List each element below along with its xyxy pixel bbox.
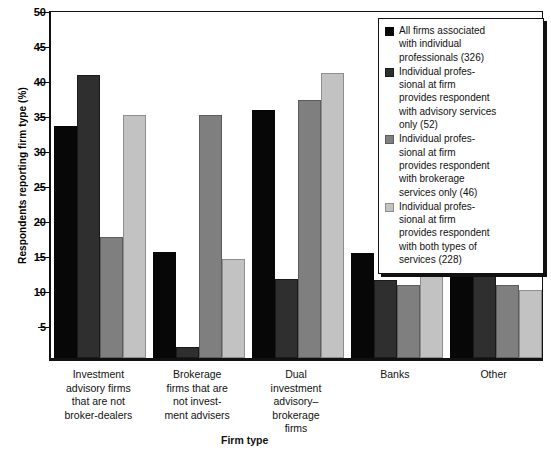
legend-label: Individual profes- sional at firm provid… [399, 200, 490, 266]
y-axis-tick-label: 45 [34, 41, 46, 53]
legend-swatch-icon [385, 203, 394, 212]
y-axis-tick-label: 50 [34, 6, 46, 18]
bar-chart-figure: Respondents reporting firm type (%) 5101… [0, 0, 551, 455]
y-axis-tick-label: 10 [34, 286, 46, 298]
legend-item: All firms associated with individual pro… [385, 24, 538, 64]
y-axis-tick-label: 30 [34, 146, 46, 158]
x-axis-title: Firm type [221, 434, 268, 446]
legend-label: Individual profes- sional at firm provid… [399, 65, 496, 131]
bar [519, 290, 542, 358]
legend-label: Individual profes- sional at firm provid… [399, 132, 490, 198]
legend-swatch-icon [385, 135, 394, 144]
chart-legend: All firms associated with individual pro… [378, 18, 544, 274]
x-axis-category-label: Dual investment advisory– brokerage firm… [244, 368, 348, 436]
legend-item: Individual profes- sional at firm provid… [385, 132, 538, 198]
y-axis-tick-label: 15 [34, 251, 46, 263]
y-axis-tick-label: 5 [40, 321, 46, 333]
x-axis-category-label: Other [442, 368, 546, 382]
y-axis-title: Respondents reporting firm type (%) [17, 46, 28, 306]
y-axis-tick-label: 20 [34, 216, 46, 228]
legend-swatch-icon [385, 27, 394, 36]
x-axis-category-label: Investment advisory firms that are not b… [46, 368, 150, 422]
legend-item: Individual profes- sional at firm provid… [385, 65, 538, 131]
legend-item: Individual profes- sional at firm provid… [385, 200, 538, 266]
y-axis-tick-label: 25 [34, 181, 46, 193]
bar [496, 285, 519, 359]
y-axis-tick-label: 40 [34, 76, 46, 88]
x-axis-category-label: Brokerage firms that are not invest- men… [145, 368, 249, 422]
legend-label: All firms associated with individual pro… [399, 24, 485, 64]
x-axis-category-label: Banks [343, 368, 447, 382]
y-axis-tick-label: 35 [34, 111, 46, 123]
legend-swatch-icon [385, 68, 394, 77]
